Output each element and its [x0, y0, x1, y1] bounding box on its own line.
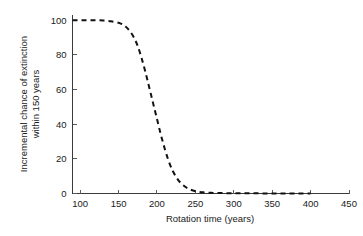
y-tick-label: 40: [56, 119, 67, 130]
y-axis-title-line2: within 150 years: [30, 69, 41, 139]
y-tick-label: 60: [56, 84, 67, 95]
x-tick-label: 300: [226, 198, 242, 209]
y-tick-label: 100: [51, 15, 67, 26]
extinction-chance-curve: [73, 20, 311, 193]
x-tick-label: 350: [264, 198, 280, 209]
y-tick-label: 0: [61, 188, 66, 199]
y-tick-label: 20: [56, 153, 67, 164]
x-tick-label: 450: [341, 198, 357, 209]
x-tick-label: 400: [303, 198, 319, 209]
x-tick-label: 250: [187, 198, 203, 209]
x-tick-label: 200: [149, 198, 165, 209]
x-tick-label: 100: [72, 198, 88, 209]
line-chart: 020406080100 100150200250300350400450 Ro…: [0, 0, 363, 236]
y-tick-label: 80: [56, 49, 67, 60]
x-tick-label: 150: [111, 198, 127, 209]
chart-figure: 020406080100 100150200250300350400450 Ro…: [0, 0, 363, 236]
x-axis-title: Rotation time (years): [166, 213, 254, 224]
x-axis-ticks: 100150200250300350400450: [72, 190, 357, 209]
y-axis-title-line1: Incremental chance of extinction: [18, 36, 29, 172]
